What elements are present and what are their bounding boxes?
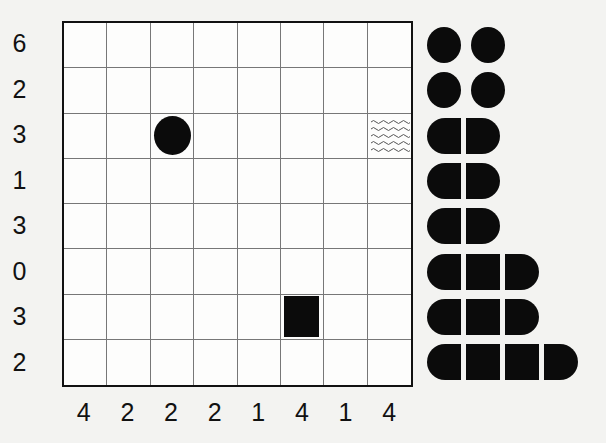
column-clue-2: 2 [106, 392, 150, 432]
grid-cell-r2-c3[interactable] [151, 68, 194, 113]
grid-cell-r2-c8[interactable] [368, 68, 411, 113]
grid-cell-r5-c7[interactable] [324, 204, 367, 249]
row-clue-7: 3 [0, 294, 30, 340]
grid-cell-r6-c4[interactable] [194, 249, 237, 294]
ship-segment-icon [466, 208, 500, 244]
grid-cell-r4-c1[interactable] [64, 159, 107, 204]
grid-cell-r3-c1[interactable] [64, 114, 107, 159]
row-clue-4: 1 [0, 158, 30, 204]
grid-cell-r2-c5[interactable] [238, 68, 281, 113]
grid-cell-r2-c4[interactable] [194, 68, 237, 113]
column-clue-3: 2 [149, 392, 193, 432]
submarine-icon [471, 27, 505, 63]
column-clue-6: 4 [280, 392, 324, 432]
row-clue-6: 0 [0, 249, 30, 295]
grid-cell-r2-c2[interactable] [107, 68, 150, 113]
grid-cell-r5-c5[interactable] [238, 204, 281, 249]
grid-cell-r2-c7[interactable] [324, 68, 367, 113]
fleet-battleship-icon [427, 344, 578, 380]
submarine-icon [427, 72, 461, 108]
grid-cell-r1-c8[interactable] [368, 23, 411, 68]
grid-cell-r8-c3[interactable] [151, 340, 194, 385]
grid-cell-r8-c1[interactable] [64, 340, 107, 385]
grid-cell-r1-c1[interactable] [64, 23, 107, 68]
grid-cell-r5-c8[interactable] [368, 204, 411, 249]
fleet-destroyer-icon [427, 208, 500, 244]
ship-segment-icon [505, 344, 539, 380]
ship-segment-icon [544, 344, 578, 380]
grid-cell-r7-c5[interactable] [238, 295, 281, 340]
grid-cell-r4-c7[interactable] [324, 159, 367, 204]
grid-cell-r1-c7[interactable] [324, 23, 367, 68]
grid-cell-r4-c8[interactable] [368, 159, 411, 204]
grid-cell-r2-c6[interactable] [281, 68, 324, 113]
grid-cell-r3-c3[interactable] [151, 114, 194, 159]
grid-cell-r1-c3[interactable] [151, 23, 194, 68]
fleet-cruiser-icon [427, 254, 539, 290]
grid-cell-r6-c6[interactable] [281, 249, 324, 294]
grid-cell-r7-c2[interactable] [107, 295, 150, 340]
grid-cell-r6-c3[interactable] [151, 249, 194, 294]
row-clue-1: 6 [0, 21, 30, 67]
row-clue-8: 2 [0, 340, 30, 386]
grid-cell-r1-c4[interactable] [194, 23, 237, 68]
grid-cell-r1-c2[interactable] [107, 23, 150, 68]
grid-cell-r5-c2[interactable] [107, 204, 150, 249]
ship-segment-icon [427, 208, 461, 244]
grid-cell-r3-c6[interactable] [281, 114, 324, 159]
grid-cell-r8-c7[interactable] [324, 340, 367, 385]
grid-cell-r8-c2[interactable] [107, 340, 150, 385]
row-clue-3: 3 [0, 112, 30, 158]
puzzle-grid[interactable] [62, 21, 413, 387]
grid-cell-r5-c4[interactable] [194, 204, 237, 249]
grid-cell-r4-c6[interactable] [281, 159, 324, 204]
grid-cell-r8-c4[interactable] [194, 340, 237, 385]
grid-cell-r4-c4[interactable] [194, 159, 237, 204]
grid-cell-r7-c1[interactable] [64, 295, 107, 340]
grid-cell-r2-c1[interactable] [64, 68, 107, 113]
row-clue-5: 3 [0, 203, 30, 249]
grid-cell-r7-c6[interactable] [281, 295, 324, 340]
grid-cell-r6-c1[interactable] [64, 249, 107, 294]
row-clue-2: 2 [0, 67, 30, 113]
fleet-row-submarines [427, 72, 505, 108]
grid-cell-r3-c8[interactable] [368, 114, 411, 159]
ship-segment-icon [427, 254, 461, 290]
fleet-destroyer-icon [427, 118, 500, 154]
grid-cell-r6-c8[interactable] [368, 249, 411, 294]
column-clue-8: 4 [367, 392, 411, 432]
ship-segment-icon [466, 344, 500, 380]
grid-cell-r3-c2[interactable] [107, 114, 150, 159]
ship-segment-icon [505, 254, 539, 290]
column-clue-7: 1 [324, 392, 368, 432]
grid-cell-r3-c5[interactable] [238, 114, 281, 159]
column-clue-4: 2 [193, 392, 237, 432]
grid-cell-r1-c6[interactable] [281, 23, 324, 68]
grid-cell-r4-c3[interactable] [151, 159, 194, 204]
fleet-row-submarines [427, 27, 505, 63]
grid-cell-r8-c6[interactable] [281, 340, 324, 385]
grid-cell-r6-c5[interactable] [238, 249, 281, 294]
column-clue-1: 4 [62, 392, 106, 432]
grid-cell-r7-c8[interactable] [368, 295, 411, 340]
grid-cell-r6-c7[interactable] [324, 249, 367, 294]
ship-segment-icon [466, 254, 500, 290]
grid-cell-r8-c5[interactable] [238, 340, 281, 385]
grid-cell-r3-c4[interactable] [194, 114, 237, 159]
grid-cell-r5-c3[interactable] [151, 204, 194, 249]
grid-cell-r1-c5[interactable] [238, 23, 281, 68]
grid-cell-r5-c6[interactable] [281, 204, 324, 249]
grid-cell-r3-c7[interactable] [324, 114, 367, 159]
water-icon [370, 116, 410, 157]
grid-cell-r5-c1[interactable] [64, 204, 107, 249]
ship-segment-icon [427, 163, 461, 199]
grid-cell-r7-c3[interactable] [151, 295, 194, 340]
grid-cell-r7-c7[interactable] [324, 295, 367, 340]
ship-segment-icon [466, 118, 500, 154]
grid-cell-r4-c2[interactable] [107, 159, 150, 204]
grid-cell-r7-c4[interactable] [194, 295, 237, 340]
grid-cell-r4-c5[interactable] [238, 159, 281, 204]
grid-cell-r8-c8[interactable] [368, 340, 411, 385]
ship-middle-segment-icon [284, 296, 319, 337]
grid-cell-r6-c2[interactable] [107, 249, 150, 294]
